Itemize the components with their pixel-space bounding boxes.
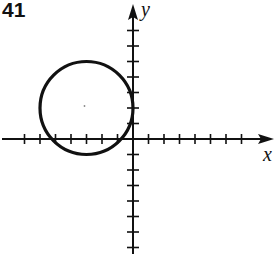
y-axis-label: y bbox=[139, 0, 150, 21]
x-axis-label: x bbox=[262, 143, 272, 165]
axes bbox=[2, 16, 262, 254]
coordinate-graph: x y bbox=[0, 0, 277, 257]
circle-center-dot bbox=[84, 105, 86, 107]
